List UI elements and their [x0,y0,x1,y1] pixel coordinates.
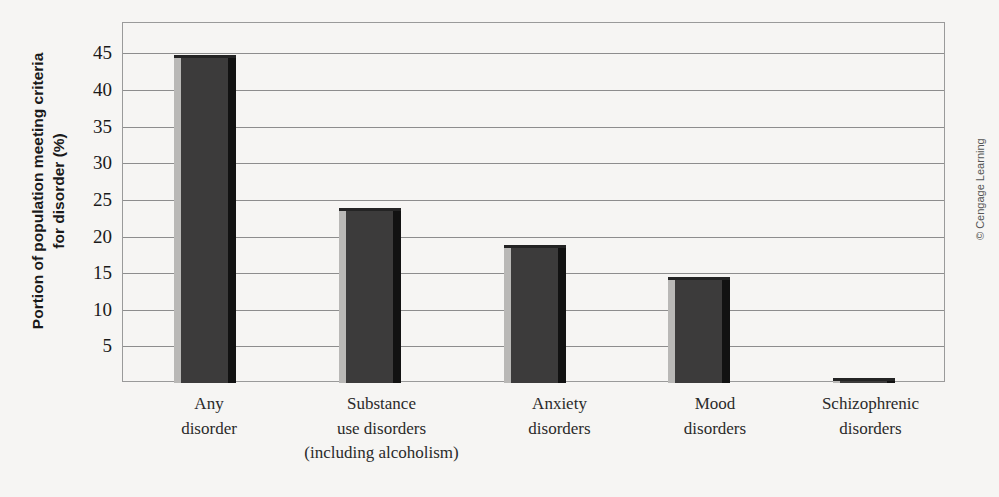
gridline-45 [123,53,944,54]
bar-left-bevel [174,55,181,383]
bar-right-bevel [722,277,730,383]
copyright-credit: © Cengage Learning [958,240,978,400]
gridline-30 [123,163,944,164]
gridline-10 [123,310,944,311]
x-label-line: Any [134,392,284,417]
y-axis-tick-labels: 45 40 35 30 25 20 15 10 5 [78,0,114,497]
y-axis-title-line-2: for disorder (%) [49,53,70,329]
bar-anxiety-disorders [504,245,566,383]
y-tick-label: 40 [78,79,112,101]
gridline-35 [123,127,944,128]
x-label-line: disorder [134,417,284,442]
bar-top-bevel [504,245,566,248]
copyright-credit-text: © Cengage Learning [974,138,986,240]
y-tick-label: 10 [78,299,112,321]
x-label-schizophrenic-disorders: Schizophrenic disorders [788,392,953,441]
bar-right-bevel [887,378,895,383]
bar-top-bevel [339,208,401,211]
y-tick-label: 5 [78,335,112,357]
bar-left-bevel [833,378,840,383]
x-label-line: disorders [788,417,953,442]
bar-body [833,378,895,383]
y-axis-title-line-1: Portion of population meeting criteria [28,53,49,329]
gridline-20 [123,237,944,238]
bar-body [504,245,566,383]
bar-top-bevel [668,277,730,280]
bar-left-bevel [504,245,511,383]
x-label-line: Schizophrenic [788,392,953,417]
y-tick-label: 15 [78,262,112,284]
bar-mood-disorders [668,277,730,383]
x-label-mood-disorders: Mood disorders [640,392,790,441]
bar-schizophrenic-disorders [833,378,895,383]
bar-body [668,277,730,383]
gridline-15 [123,273,944,274]
bar-substance-use-disorders [339,208,401,383]
x-label-line: Substance [284,392,479,417]
bar-left-bevel [339,208,346,383]
y-tick-label: 45 [78,42,112,64]
gridline-25 [123,200,944,201]
bar-body [339,208,401,383]
bar-right-bevel [228,55,236,383]
x-label-anxiety-disorders: Anxiety disorders [482,392,637,441]
bars-layer [123,23,944,381]
x-label-line: (including alcoholism) [284,441,479,466]
y-tick-label: 25 [78,189,112,211]
x-label-line: Anxiety [482,392,637,417]
y-tick-label: 30 [78,152,112,174]
x-label-any-disorder: Any disorder [134,392,284,441]
bar-body [174,55,236,383]
bar-right-bevel [558,245,566,383]
y-axis-title: Portion of population meeting criteria f… [14,0,84,382]
bar-top-bevel [174,55,236,58]
plot-area [122,22,945,382]
bar-left-bevel [668,277,675,383]
x-axis-category-labels: Any disorder Substance use disorders (in… [122,392,945,482]
bar-top-bevel [833,378,895,381]
bar-any-disorder [174,55,236,383]
gridline-40 [123,90,944,91]
y-tick-label: 20 [78,226,112,248]
x-label-line: use disorders [284,417,479,442]
gridline-5 [123,346,944,347]
x-label-line: disorders [482,417,637,442]
x-label-line: disorders [640,417,790,442]
y-tick-label: 35 [78,116,112,138]
x-label-substance-use-disorders: Substance use disorders (including alcoh… [284,392,479,466]
x-label-line: Mood [640,392,790,417]
chart-figure: Portion of population meeting criteria f… [0,0,999,497]
bar-right-bevel [393,208,401,383]
